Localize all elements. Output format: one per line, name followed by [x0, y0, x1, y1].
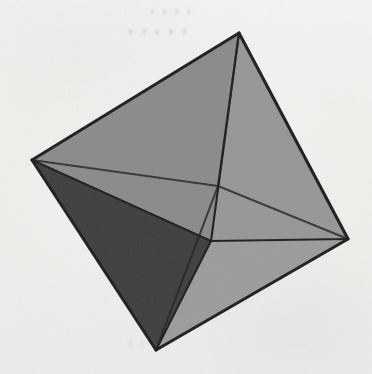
octahedron-drawing	[0, 0, 372, 374]
scan-grain-overlay	[0, 0, 372, 374]
figure-canvas: • • • • • • • • • • • • • •	[0, 0, 372, 374]
